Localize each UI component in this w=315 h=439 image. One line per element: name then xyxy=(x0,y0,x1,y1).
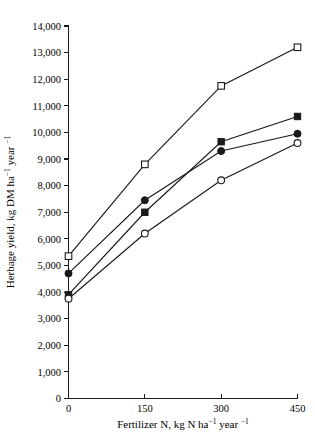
y-tick-label: 2,000 xyxy=(37,340,61,351)
x-axis-title: Fertilizer N, kg N ha−1 year −1 xyxy=(117,417,249,431)
y-tick-label: 3,000 xyxy=(37,313,61,324)
marker-filled-circle xyxy=(65,270,72,277)
series-filled-circle xyxy=(65,130,301,277)
y-tick-label: 10,000 xyxy=(32,127,61,138)
y-tick-label: 9,000 xyxy=(37,154,61,165)
marker-filled-square xyxy=(294,113,300,119)
y-tick-label: 0 xyxy=(56,393,61,404)
y-tick-label: 6,000 xyxy=(37,234,61,245)
x-tick-label: 450 xyxy=(290,403,306,414)
x-tick-label: 300 xyxy=(213,403,229,414)
data-series-group xyxy=(65,44,301,302)
marker-open-circle xyxy=(65,295,72,302)
series-line-filled-square xyxy=(69,116,298,294)
marker-open-square xyxy=(218,83,225,90)
x-tick-label: 0 xyxy=(66,403,71,414)
y-tick-label: 11,000 xyxy=(33,101,62,112)
x-tick-label: 150 xyxy=(137,403,153,414)
marker-open-circle xyxy=(294,140,301,147)
chart-figure: 01,0002,0003,0004,0005,0006,0007,0008,00… xyxy=(0,0,315,439)
y-tick-label: 7,000 xyxy=(37,207,61,218)
y-tick-label: 4,000 xyxy=(37,287,61,298)
marker-filled-square xyxy=(142,209,148,215)
y-axis-title: Herbage yield, kg DM ha−1 year −1 xyxy=(3,135,17,288)
x-axis-ticks: 0150300450 xyxy=(66,394,306,414)
series-line-filled-circle xyxy=(69,134,298,274)
marker-filled-circle xyxy=(141,197,148,204)
marker-open-circle xyxy=(218,177,225,184)
series-line-open-circle xyxy=(69,143,298,299)
series-open-circle xyxy=(65,140,301,302)
y-tick-label: 8,000 xyxy=(37,180,61,191)
y-tick-label: 5,000 xyxy=(37,260,61,271)
series-open-square xyxy=(65,44,301,259)
marker-open-square xyxy=(142,161,149,168)
line-chart: 01,0002,0003,0004,0005,0006,0007,0008,00… xyxy=(0,0,315,439)
marker-open-square xyxy=(65,253,72,260)
marker-filled-square xyxy=(218,139,224,145)
y-tick-label: 13,000 xyxy=(32,47,61,58)
y-tick-label: 1,000 xyxy=(37,367,61,378)
y-tick-label: 14,000 xyxy=(32,21,61,32)
marker-filled-circle xyxy=(294,130,301,137)
marker-open-square xyxy=(294,44,301,51)
series-line-open-square xyxy=(69,47,298,256)
y-axis-ticks: 01,0002,0003,0004,0005,0006,0007,0008,00… xyxy=(32,21,68,405)
marker-open-circle xyxy=(141,230,148,237)
marker-filled-circle xyxy=(218,148,225,155)
y-tick-label: 12,000 xyxy=(32,74,61,85)
